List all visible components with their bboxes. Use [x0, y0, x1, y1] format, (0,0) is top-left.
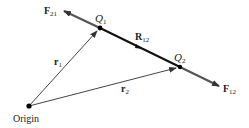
q2-label: Q2: [174, 51, 186, 65]
origin-point: [26, 103, 31, 108]
q1-label: Q1: [95, 12, 107, 26]
origin-label: Origin: [13, 113, 39, 124]
q2-point: [178, 65, 182, 69]
q1-point: [98, 26, 103, 31]
r12-midarrow-icon: [135, 44, 143, 49]
vector-r1: [29, 31, 97, 106]
r2-label: r2: [121, 83, 129, 96]
vector-r2: [29, 68, 176, 106]
vector-f12: [180, 67, 219, 86]
f21-label: F21: [44, 5, 58, 18]
r1-label: r1: [54, 56, 62, 69]
r12-label: R12: [135, 31, 150, 44]
f12-label: F12: [223, 83, 237, 96]
coulomb-vector-diagram: Origin Q1 Q2 r1 r2 R12 F21 F12: [0, 0, 249, 128]
